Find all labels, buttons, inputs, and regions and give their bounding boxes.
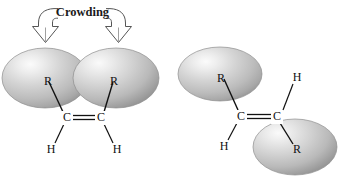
trans-label-c-right: C: [273, 109, 281, 123]
cis-label-r-right: R: [110, 74, 118, 88]
trans-label-c-left: C: [237, 109, 245, 123]
trans-label-h-lower: H: [220, 139, 229, 153]
crowding-label: Crowding: [56, 5, 110, 19]
trans-label-h-upper: H: [293, 70, 302, 84]
cis-alkene-structure: R R C C H H: [2, 48, 159, 156]
trans-label-r-lower: R: [293, 142, 301, 156]
cis-label-h-left: H: [47, 142, 56, 156]
cis-label-c-right: C: [97, 110, 105, 124]
trans-bond-h-lower: [228, 123, 237, 140]
trans-alkene-structure: R H C C H R: [178, 47, 337, 175]
figure-canvas: Crowding R R C C H H: [0, 0, 338, 183]
steric-crowding-diagram: Crowding R R C C H H: [0, 0, 338, 183]
cis-bond-h-right: [104, 124, 113, 143]
cis-label-r-left: R: [44, 74, 52, 88]
cis-label-h-right: H: [113, 142, 122, 156]
trans-bond-h-upper: [283, 84, 293, 110]
cis-bond-h-left: [55, 124, 64, 143]
cis-label-c-left: C: [63, 110, 71, 124]
trans-label-r-upper: R: [217, 71, 225, 85]
crowding-annotation: Crowding: [33, 5, 132, 43]
